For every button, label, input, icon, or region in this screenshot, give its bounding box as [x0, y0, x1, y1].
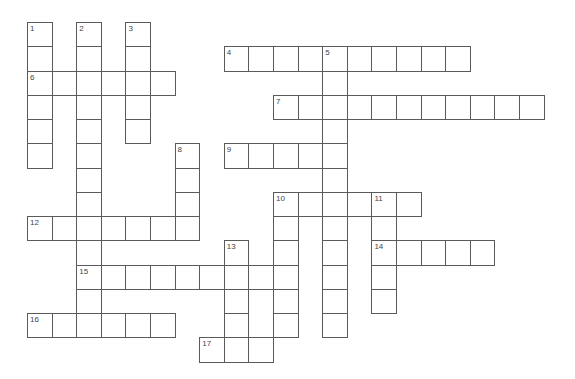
crossword-cell[interactable] — [322, 168, 348, 193]
crossword-cell[interactable]: 7 — [273, 95, 299, 120]
crossword-cell[interactable] — [347, 192, 373, 217]
crossword-cell[interactable] — [76, 143, 102, 168]
crossword-cell[interactable] — [371, 216, 397, 241]
crossword-cell[interactable]: 6 — [27, 71, 53, 96]
crossword-cell[interactable] — [494, 95, 520, 120]
crossword-cell[interactable] — [125, 95, 151, 120]
crossword-cell[interactable] — [27, 95, 53, 120]
crossword-cell[interactable] — [396, 192, 422, 217]
crossword-cell[interactable] — [27, 46, 53, 71]
crossword-cell[interactable] — [371, 289, 397, 314]
crossword-cell[interactable] — [273, 265, 299, 290]
crossword-cell[interactable] — [371, 46, 397, 71]
crossword-cell[interactable] — [273, 143, 299, 168]
crossword-cell[interactable]: 17 — [199, 337, 225, 362]
crossword-cell[interactable] — [445, 240, 471, 265]
crossword-cell[interactable]: 12 — [27, 216, 53, 241]
crossword-cell[interactable] — [101, 313, 127, 338]
crossword-cell[interactable] — [322, 313, 348, 338]
crossword-cell[interactable] — [248, 143, 274, 168]
crossword-cell[interactable] — [150, 71, 176, 96]
crossword-cell[interactable] — [27, 119, 53, 144]
crossword-cell[interactable]: 5 — [322, 46, 348, 71]
crossword-cell[interactable] — [224, 265, 250, 290]
crossword-cell[interactable] — [150, 265, 176, 290]
crossword-cell[interactable] — [273, 216, 299, 241]
crossword-cell[interactable] — [224, 337, 250, 362]
crossword-cell[interactable] — [322, 192, 348, 217]
crossword-cell[interactable] — [273, 46, 299, 71]
crossword-cell[interactable] — [76, 192, 102, 217]
crossword-cell[interactable]: 16 — [27, 313, 53, 338]
crossword-cell[interactable] — [175, 265, 201, 290]
crossword-cell[interactable] — [273, 240, 299, 265]
crossword-cell[interactable] — [125, 119, 151, 144]
crossword-cell[interactable] — [445, 46, 471, 71]
crossword-cell[interactable] — [150, 313, 176, 338]
crossword-cell[interactable] — [248, 337, 274, 362]
crossword-cell[interactable] — [76, 46, 102, 71]
crossword-cell[interactable] — [445, 95, 471, 120]
crossword-cell[interactable]: 2 — [76, 22, 102, 47]
crossword-cell[interactable] — [322, 95, 348, 120]
crossword-cell[interactable] — [27, 143, 53, 168]
crossword-cell[interactable] — [76, 71, 102, 96]
crossword-cell[interactable] — [322, 216, 348, 241]
crossword-cell[interactable] — [421, 46, 447, 71]
crossword-cell[interactable] — [76, 95, 102, 120]
crossword-cell[interactable] — [125, 46, 151, 71]
crossword-cell[interactable] — [224, 313, 250, 338]
crossword-cell[interactable] — [347, 46, 373, 71]
crossword-cell[interactable]: 9 — [224, 143, 250, 168]
crossword-cell[interactable] — [470, 95, 496, 120]
crossword-cell[interactable]: 14 — [371, 240, 397, 265]
crossword-cell[interactable] — [396, 95, 422, 120]
crossword-cell[interactable] — [298, 143, 324, 168]
crossword-cell[interactable] — [322, 119, 348, 144]
crossword-cell[interactable] — [76, 289, 102, 314]
crossword-cell[interactable] — [52, 216, 78, 241]
crossword-cell[interactable] — [322, 289, 348, 314]
crossword-cell[interactable] — [470, 240, 496, 265]
crossword-cell[interactable] — [76, 168, 102, 193]
crossword-cell[interactable] — [52, 313, 78, 338]
crossword-cell[interactable] — [199, 265, 225, 290]
crossword-cell[interactable] — [248, 265, 274, 290]
crossword-cell[interactable]: 4 — [224, 46, 250, 71]
crossword-cell[interactable] — [125, 216, 151, 241]
crossword-cell[interactable]: 11 — [371, 192, 397, 217]
crossword-cell[interactable]: 3 — [125, 22, 151, 47]
crossword-cell[interactable]: 13 — [224, 240, 250, 265]
crossword-cell[interactable] — [125, 71, 151, 96]
crossword-cell[interactable] — [421, 95, 447, 120]
crossword-cell[interactable] — [101, 265, 127, 290]
crossword-cell[interactable] — [371, 95, 397, 120]
crossword-cell[interactable] — [76, 313, 102, 338]
crossword-cell[interactable]: 1 — [27, 22, 53, 47]
crossword-cell[interactable] — [322, 265, 348, 290]
crossword-cell[interactable] — [396, 240, 422, 265]
crossword-cell[interactable] — [101, 71, 127, 96]
crossword-cell[interactable]: 15 — [76, 265, 102, 290]
crossword-cell[interactable] — [125, 313, 151, 338]
crossword-cell[interactable] — [175, 192, 201, 217]
crossword-cell[interactable] — [273, 313, 299, 338]
crossword-cell[interactable] — [248, 46, 274, 71]
crossword-cell[interactable] — [224, 289, 250, 314]
crossword-cell[interactable] — [76, 216, 102, 241]
crossword-cell[interactable] — [175, 216, 201, 241]
crossword-cell[interactable]: 10 — [273, 192, 299, 217]
crossword-cell[interactable] — [101, 216, 127, 241]
crossword-cell[interactable] — [273, 289, 299, 314]
crossword-cell[interactable] — [76, 240, 102, 265]
crossword-cell[interactable]: 8 — [175, 143, 201, 168]
crossword-cell[interactable] — [322, 71, 348, 96]
crossword-cell[interactable] — [298, 192, 324, 217]
crossword-cell[interactable] — [371, 265, 397, 290]
crossword-cell[interactable] — [347, 95, 373, 120]
crossword-cell[interactable] — [322, 143, 348, 168]
crossword-cell[interactable] — [52, 71, 78, 96]
crossword-cell[interactable] — [322, 240, 348, 265]
crossword-cell[interactable] — [125, 265, 151, 290]
crossword-cell[interactable] — [519, 95, 545, 120]
